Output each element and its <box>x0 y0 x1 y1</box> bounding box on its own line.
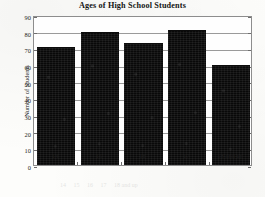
plot-area: 0102030405060708090 <box>33 16 252 166</box>
axis-tick <box>209 162 210 165</box>
y-axis-tick-label: 20 <box>25 130 31 137</box>
page-bleed-artifact: 14 15 16 17 18 and up <box>60 182 220 192</box>
y-axis-tick-label: 30 <box>25 114 31 121</box>
bar <box>212 65 250 165</box>
x-axis-tick-label: 14 <box>52 152 59 159</box>
bar <box>168 30 206 165</box>
axis-tick <box>165 162 166 165</box>
x-axis-tick-label: 16 <box>139 152 146 159</box>
axis-tick <box>248 17 251 18</box>
y-axis-tick-label: 10 <box>25 147 31 154</box>
axis-tick <box>34 167 37 168</box>
y-axis-tick-label: 60 <box>25 64 31 71</box>
x-axis-tick-label: 18 and up <box>217 152 243 159</box>
bar <box>81 32 119 165</box>
y-axis-title: Number of Students <box>23 65 30 116</box>
y-axis-tick-label: 0 <box>28 164 31 171</box>
axis-tick <box>77 162 78 165</box>
axis-tick <box>248 50 251 51</box>
axis-tick <box>34 33 37 34</box>
axis-tick <box>121 162 122 165</box>
axis-tick <box>248 167 251 168</box>
scanned-page: Ages of High School Students Number of S… <box>0 0 265 197</box>
y-axis-tick-label: 80 <box>25 30 31 37</box>
bar <box>37 47 75 165</box>
x-axis-tick-label: 15 <box>95 152 102 159</box>
gridline <box>34 33 251 34</box>
y-axis-tick-label: 40 <box>25 97 31 104</box>
y-axis-tick-label: 50 <box>25 80 31 87</box>
axis-tick <box>248 33 251 34</box>
chart-title: Ages of High School Students <box>0 1 265 10</box>
y-axis-tick-label: 70 <box>25 47 31 54</box>
y-axis-tick-label: 90 <box>25 14 31 21</box>
x-axis-tick-label: 17 <box>183 152 190 159</box>
axis-tick <box>34 17 37 18</box>
bar <box>124 43 162 165</box>
